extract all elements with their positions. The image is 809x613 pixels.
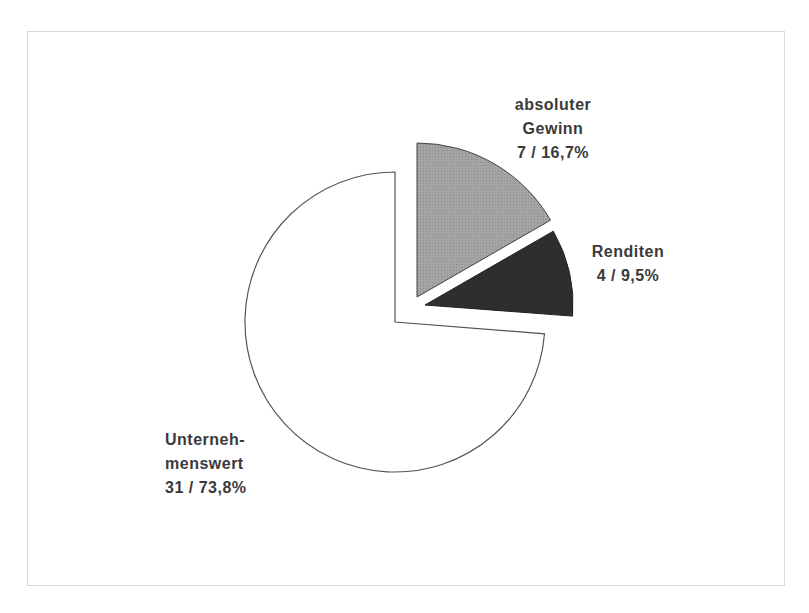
label-line: Gewinn [488, 117, 618, 141]
label-line: menswert [165, 452, 285, 476]
label-value: 7 / 16,7% [488, 141, 618, 165]
label-renditen: Renditen 4 / 9,5% [573, 240, 683, 288]
label-line: Renditen [573, 240, 683, 264]
label-value: 4 / 9,5% [573, 264, 683, 288]
label-line: Unterneh- [165, 428, 285, 452]
pie-chart [0, 0, 809, 613]
label-absoluter-gewinn: absoluter Gewinn 7 / 16,7% [488, 93, 618, 165]
label-value: 31 / 73,8% [165, 476, 285, 500]
label-line: absoluter [488, 93, 618, 117]
label-unternehmenswert: Unterneh- menswert 31 / 73,8% [165, 428, 285, 500]
